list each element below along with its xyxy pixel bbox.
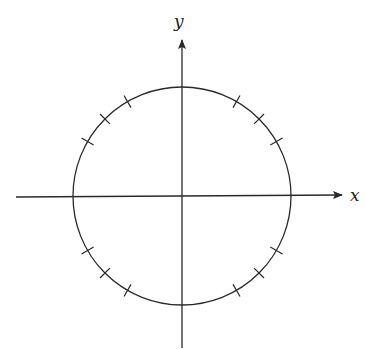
tick-mark [82, 138, 94, 145]
tick-mark [124, 284, 131, 296]
tick-mark [270, 247, 282, 254]
y-axis-label: y [173, 11, 184, 31]
x-axis-label: x [350, 185, 360, 205]
tick-mark [82, 247, 94, 254]
x-axis [16, 195, 342, 197]
tick-mark [233, 284, 240, 296]
tick-mark [124, 96, 131, 108]
tick-mark [270, 138, 282, 145]
unit-circle-diagram: x y [0, 0, 365, 349]
tick-mark [233, 96, 240, 108]
